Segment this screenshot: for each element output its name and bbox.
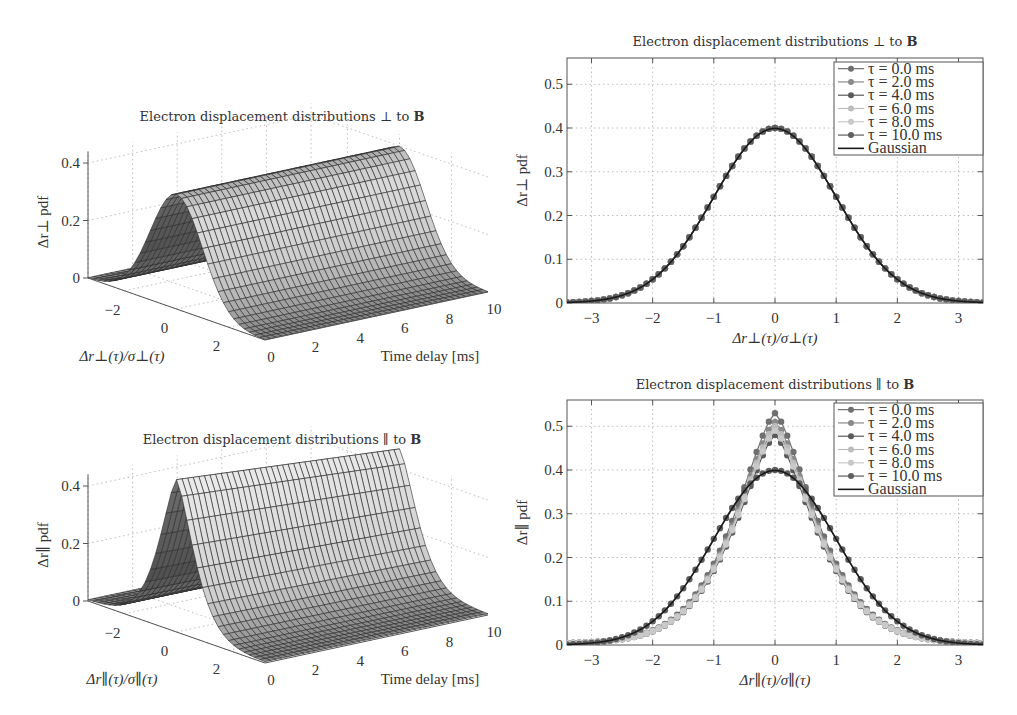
x-tick-label: −1	[706, 310, 722, 326]
time-tick-label: 6	[401, 320, 409, 336]
data-point	[857, 602, 863, 608]
x-tick-label: 1	[832, 310, 840, 326]
line-plot-parallel: Electron displacement distributions ∥ to…	[514, 377, 986, 689]
data-point	[784, 448, 790, 454]
y-tick-label: 0	[556, 295, 564, 311]
x-tick-label: 0	[771, 652, 779, 668]
time-tick-label: 10	[487, 624, 502, 640]
data-point	[772, 410, 778, 416]
surface-mesh	[88, 449, 488, 662]
surface-plot-perpendicular: Electron displacement distributions ⊥ to…	[35, 104, 502, 366]
data-point	[864, 608, 870, 614]
data-point	[680, 608, 686, 614]
x-tick-label: 2	[213, 338, 221, 354]
time-tick-label: 2	[312, 339, 320, 355]
y-tick-label: 0	[556, 637, 564, 653]
data-point	[723, 541, 729, 547]
y-tick-label: 0.3	[544, 164, 563, 180]
z-tick-label: 0.2	[61, 213, 80, 229]
data-point	[674, 614, 680, 620]
time-tick-label: 4	[356, 330, 364, 346]
data-point	[741, 496, 747, 502]
data-point	[760, 448, 766, 454]
legend: τ = 0.0 msτ = 2.0 msτ = 4.0 msτ = 6.0 ms…	[834, 401, 983, 498]
x-tick-label: 2	[213, 661, 221, 677]
data-point	[662, 622, 668, 628]
x-axis-label: Δr∥(τ)/σ∥(τ)	[739, 672, 811, 689]
z-tick-label: 0	[73, 593, 81, 609]
time-tick-label: 2	[312, 662, 320, 678]
x-tick-label: −2	[645, 652, 661, 668]
y-tick-label: 0.5	[544, 418, 563, 434]
x-tick-label: 2	[894, 310, 902, 326]
x-axis-label: Δr⊥(τ)/σ⊥(τ)	[731, 330, 817, 347]
data-point	[894, 628, 900, 634]
data-point	[821, 541, 827, 547]
data-point	[692, 595, 698, 601]
data-point	[845, 587, 851, 593]
data-point	[668, 618, 674, 624]
x-tick-label: −2	[645, 310, 661, 326]
time-tick-label: 10	[487, 301, 502, 317]
data-point	[839, 577, 845, 583]
x-axis-label: Δr∥(τ)/σ∥(τ)	[86, 671, 158, 688]
data-point	[766, 418, 772, 424]
y-tick-label: 0.2	[544, 208, 563, 224]
y-axis-label: Δr⊥ pdf	[514, 154, 530, 207]
data-point	[698, 587, 704, 593]
x-tick-label: 2	[894, 652, 902, 668]
data-point	[711, 566, 717, 572]
svg-text:Gaussian: Gaussian	[868, 139, 927, 156]
svg-text:Gaussian: Gaussian	[868, 480, 927, 497]
z-tick-label: 0.4	[61, 155, 80, 171]
data-point	[888, 625, 894, 631]
data-point	[815, 527, 821, 533]
x-tick-label: −1	[706, 652, 722, 668]
x-tick-label: −2	[104, 302, 120, 318]
data-point	[656, 625, 662, 631]
data-point	[827, 554, 833, 560]
figure-canvas: Electron displacement distributions ⊥ to…	[0, 0, 1017, 715]
z-tick-label: 0.4	[61, 478, 80, 494]
y-tick-label: 0.4	[544, 120, 563, 136]
data-point	[649, 628, 655, 634]
time-axis-label: Time delay [ms]	[381, 671, 480, 687]
data-point	[802, 496, 808, 502]
line-plot-perpendicular: Electron displacement distributions ⊥ to…	[514, 34, 986, 347]
data-point	[735, 512, 741, 518]
z-axis-label: Δr∥ pdf	[35, 522, 51, 567]
data-point	[778, 435, 784, 441]
data-point	[637, 632, 643, 638]
z-axis-label: Δr⊥ pdf	[35, 196, 51, 249]
x-tick-label: 3	[955, 310, 963, 326]
plot-title: Electron displacement distributions ∥ to…	[636, 377, 915, 392]
data-point	[753, 463, 759, 469]
y-tick-label: 0.1	[544, 251, 563, 267]
x-axis-label: Δr⊥(τ)/σ⊥(τ)	[78, 348, 164, 365]
y-axis-label: Δr∥ pdf	[514, 500, 530, 545]
legend: τ = 0.0 msτ = 2.0 msτ = 4.0 msτ = 6.0 ms…	[834, 60, 983, 157]
data-point	[906, 632, 912, 638]
time-tick-label: 8	[446, 311, 454, 327]
data-point	[790, 463, 796, 469]
data-point	[876, 618, 882, 624]
x-tick-label: −2	[104, 625, 120, 641]
time-tick-label: 0	[267, 672, 275, 688]
data-point	[851, 595, 857, 601]
data-point	[882, 622, 888, 628]
x-tick-label: 3	[955, 652, 963, 668]
x-tick-label: 0	[161, 320, 169, 336]
time-tick-label: 6	[401, 643, 409, 659]
data-point	[717, 554, 723, 560]
z-tick-label: 0	[73, 270, 81, 286]
y-tick-label: 0.1	[544, 593, 563, 609]
data-point	[809, 512, 815, 518]
data-point	[870, 614, 876, 620]
data-point	[766, 435, 772, 441]
y-tick-label: 0.4	[544, 462, 563, 478]
x-tick-label: 0	[771, 310, 779, 326]
data-point	[778, 418, 784, 424]
data-point	[705, 577, 711, 583]
y-tick-label: 0.3	[544, 506, 563, 522]
data-point	[833, 566, 839, 572]
